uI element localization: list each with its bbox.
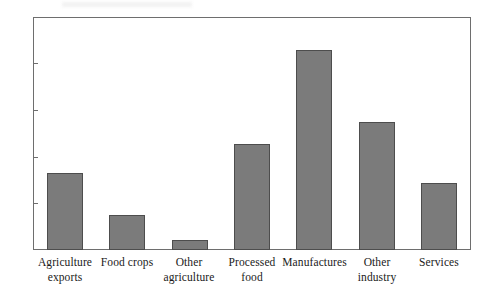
- bar-food-crops[interactable]: [109, 215, 145, 250]
- bar-chart: 50 40 30 20 10 0: [0, 0, 480, 292]
- bar-slot: [96, 18, 158, 250]
- x-label-line1: Other: [364, 256, 391, 268]
- bar-other-industry[interactable]: [359, 122, 395, 250]
- bar-slot: [34, 18, 96, 250]
- x-label-line1: Other: [176, 256, 203, 268]
- bar-slot: [346, 18, 408, 250]
- bars-layer: [34, 18, 470, 250]
- bar-manufactures[interactable]: [296, 50, 332, 250]
- x-label-line1: Services: [419, 256, 459, 268]
- x-label-services: Services: [399, 255, 479, 270]
- bar-agriculture-exports[interactable]: [47, 173, 83, 250]
- bar-other-agriculture[interactable]: [172, 240, 208, 250]
- x-label-line2: food: [212, 270, 292, 285]
- bar-slot: [221, 18, 283, 250]
- scan-artifact: [62, 2, 192, 7]
- bar-processed-food[interactable]: [234, 144, 270, 250]
- x-label-line1: Food crops: [101, 256, 153, 268]
- x-label-line2: exports: [25, 270, 105, 285]
- x-label-line1: Agriculture: [38, 256, 92, 268]
- bar-services[interactable]: [421, 183, 457, 250]
- x-label-line2: industry: [337, 270, 417, 285]
- x-axis-labels: Agriculture exports Food crops Other agr…: [34, 255, 470, 292]
- y-axis: 50 40 30 20 10 0: [0, 0, 33, 292]
- bar-slot: [159, 18, 221, 250]
- bar-slot: [283, 18, 345, 250]
- bar-slot: [408, 18, 470, 250]
